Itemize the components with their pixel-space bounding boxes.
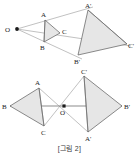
bottom-label-C: C <box>41 129 46 137</box>
top-label-B-prime: B' <box>74 58 80 66</box>
bottom-label-C-prime: C' <box>81 68 87 76</box>
top-label-C: C <box>62 28 67 36</box>
bottom-diagram-group: B A C O C' B' A' <box>2 68 130 143</box>
top-label-A-prime: A' <box>85 2 91 10</box>
top-center-point-O <box>15 27 19 31</box>
bottom-label-A: A <box>35 79 40 87</box>
bottom-label-B: B <box>2 103 7 111</box>
top-diagram-group: O A B C A' B' C' <box>5 2 134 66</box>
bottom-label-O: O <box>60 109 65 117</box>
figure-caption: [그림 2] <box>58 145 82 153</box>
line-C-through-O-to-C-prime <box>44 76 84 126</box>
left-triangle-A-B-C <box>10 88 44 126</box>
top-label-A: A <box>41 11 46 19</box>
bottom-label-B-prime: B' <box>124 103 130 111</box>
bottom-label-A-prime: A' <box>85 135 91 143</box>
geometry-diagram: O A B C A' B' C' B A C <box>0 0 139 154</box>
bottom-center-point-O <box>62 104 65 107</box>
figure-container: O A B C A' B' C' B A C <box>0 0 139 154</box>
top-label-O: O <box>5 26 10 34</box>
small-triangle-A-B-C <box>44 20 60 42</box>
large-triangle-A-prime-B-prime-C-prime <box>78 10 127 55</box>
ray-O-to-A-prime <box>17 7 93 29</box>
right-triangle-C-prime-B-prime-A-prime <box>84 76 122 132</box>
top-label-B: B <box>40 44 45 52</box>
top-label-C-prime: C' <box>128 42 134 50</box>
